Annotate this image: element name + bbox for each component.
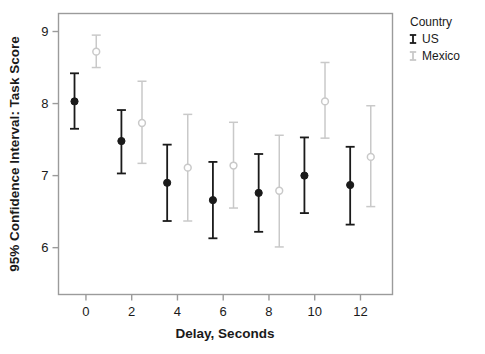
data-point-marker xyxy=(164,179,171,186)
y-axis-title: 95% Confidence Interval: Task Score xyxy=(7,36,22,272)
error-bar-point xyxy=(163,145,172,221)
error-bar-point xyxy=(229,122,238,208)
error-bar-point xyxy=(70,73,79,128)
data-point-marker xyxy=(209,197,216,204)
error-bar-point xyxy=(366,106,375,207)
x-axis-ticks: 024681012 xyxy=(82,295,367,319)
data-point-marker xyxy=(93,48,100,55)
legend-title: Country xyxy=(410,15,452,29)
data-series-layer xyxy=(70,35,375,247)
data-point-marker xyxy=(322,98,329,105)
error-bar-point xyxy=(183,114,192,221)
y-tick-label: 7 xyxy=(41,168,48,183)
error-bar-point xyxy=(117,110,126,173)
error-bar-point xyxy=(300,137,309,213)
x-tick-label: 0 xyxy=(82,304,89,319)
series-us xyxy=(70,73,355,238)
x-tick-label: 2 xyxy=(128,304,135,319)
plot-frame xyxy=(59,14,393,295)
x-tick-label: 10 xyxy=(307,304,321,319)
error-bar-point xyxy=(138,81,147,163)
error-bar-point xyxy=(275,135,284,247)
data-point-marker xyxy=(367,153,374,160)
y-tick-label: 6 xyxy=(41,240,48,255)
error-bar-point xyxy=(346,147,355,225)
x-tick-label: 4 xyxy=(174,304,181,319)
x-tick-label: 12 xyxy=(353,304,367,319)
confidence-interval-scatter-plot: 6789 024681012 Delay, Seconds 95% Confid… xyxy=(0,0,485,354)
data-point-marker xyxy=(255,189,262,196)
error-bar-point xyxy=(321,62,330,138)
legend-entries: USMexico xyxy=(410,32,461,63)
y-tick-label: 9 xyxy=(41,24,48,39)
legend-entry-label: Mexico xyxy=(422,49,460,63)
x-tick-label: 6 xyxy=(220,304,227,319)
data-point-marker xyxy=(71,98,78,105)
data-point-marker xyxy=(230,162,237,169)
data-point-marker xyxy=(184,164,191,171)
data-point-marker xyxy=(276,187,283,194)
x-axis-title: Delay, Seconds xyxy=(176,326,275,341)
data-point-marker xyxy=(139,120,146,127)
legend-entry-mexico: Mexico xyxy=(410,49,461,63)
error-bar-point xyxy=(92,35,101,67)
y-tick-label: 8 xyxy=(41,96,48,111)
legend-entry-us: US xyxy=(410,32,439,46)
chart-container: 6789 024681012 Delay, Seconds 95% Confid… xyxy=(0,0,485,354)
error-bar-point xyxy=(208,162,217,238)
data-point-marker xyxy=(301,172,308,179)
chart-legend: Country USMexico xyxy=(410,15,461,63)
series-mexico xyxy=(92,35,376,247)
data-point-marker xyxy=(347,181,354,188)
data-point-marker xyxy=(118,137,125,144)
y-axis-ticks: 6789 xyxy=(41,24,58,255)
error-bar-point xyxy=(254,154,263,232)
legend-entry-label: US xyxy=(422,32,439,46)
x-tick-label: 8 xyxy=(265,304,272,319)
